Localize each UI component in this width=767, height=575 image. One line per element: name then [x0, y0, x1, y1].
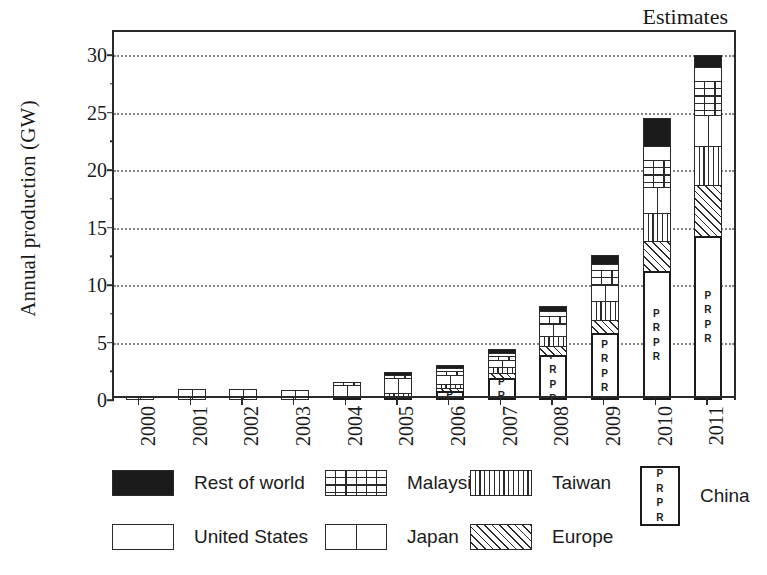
legend-label: United States — [194, 526, 308, 548]
x-tick-label: 2005 — [395, 406, 418, 446]
bar-segment-rest-of-world — [488, 349, 516, 353]
legend-label: Japan — [407, 526, 459, 548]
y-tick-mark — [107, 54, 114, 56]
x-tick-label: 2003 — [291, 406, 314, 446]
bar-segment-china: P R P R — [694, 236, 722, 400]
bar-segment-taiwan — [436, 384, 464, 387]
x-tick-mark — [138, 398, 140, 405]
bar-2006[interactable]: P — [436, 365, 464, 400]
bar-segment-taiwan — [694, 146, 722, 185]
y-tick-label: 20 — [87, 159, 107, 182]
x-tick-label: 2001 — [188, 406, 211, 446]
bar-segment-europe — [643, 241, 671, 271]
legend-swatch-solid-black — [112, 470, 174, 496]
bar-segment-europe — [488, 373, 516, 378]
bar-segment-malaysia — [384, 375, 412, 378]
bar-segment-japan — [643, 187, 671, 212]
bar-segment-china: P R P R — [643, 271, 671, 400]
bar-segment-rest-of-world — [539, 306, 567, 312]
bar-segment-china: P R P R — [591, 333, 619, 400]
legend-item-japan[interactable]: Japan — [325, 524, 459, 550]
legend-label: Taiwan — [552, 472, 611, 494]
bar-segment-malaysia — [539, 316, 567, 324]
bar-segment-europe — [694, 185, 722, 236]
y-tick-mark — [107, 227, 114, 229]
x-tick-mark — [706, 398, 708, 405]
bar-segment-japan — [436, 375, 464, 385]
x-tick-label: 2010 — [653, 406, 676, 446]
bar-segment-rest-of-world — [591, 255, 619, 264]
bar-segment-malaysia — [591, 270, 619, 285]
legend-swatch-diagonal-hatch — [470, 524, 532, 550]
x-tick-mark — [345, 398, 347, 405]
china-pr-marker: P R P R — [656, 467, 664, 525]
y-tick-mark — [107, 112, 114, 114]
x-tick-mark — [551, 398, 553, 405]
x-tick-label: 2009 — [601, 406, 624, 446]
bar-segment-united-states — [539, 311, 567, 316]
bar-segment-rest-of-world — [643, 118, 671, 146]
legend-item-europe[interactable]: Europe — [470, 524, 613, 550]
china-pr-marker: P R P R — [704, 289, 712, 347]
bar-segment-japan — [333, 385, 361, 396]
bar-segment-taiwan — [488, 367, 516, 373]
legend-swatch-single-divider — [325, 524, 387, 550]
x-tick-label: 2002 — [240, 406, 263, 446]
bar-segment-japan — [539, 324, 567, 336]
bar-segment-united-states — [436, 368, 464, 371]
bar-2008[interactable]: P R P R — [539, 306, 567, 400]
bar-2009[interactable]: P R P R — [591, 255, 619, 400]
bar-segment-united-states — [591, 264, 619, 270]
legend-swatch-china-pr-box: P R P R — [640, 466, 680, 526]
x-tick-mark — [603, 398, 605, 405]
china-pr-marker: P R P R — [549, 355, 557, 400]
bar-2007[interactable]: P R — [488, 349, 516, 400]
legend-item-united-states[interactable]: United States — [112, 524, 308, 550]
x-tick-mark — [293, 398, 295, 405]
x-tick-mark — [396, 398, 398, 405]
bar-segment-taiwan — [591, 301, 619, 319]
bars-layer: PPPP RP R P RP R P RP R P RP R P R — [114, 32, 734, 400]
y-tick-label: 5 — [97, 331, 107, 354]
bar-segment-china: P R P R — [539, 355, 567, 400]
china-pr-marker: P R P R — [653, 307, 661, 365]
legend-item-rest-of-world[interactable]: Rest of world — [112, 470, 305, 496]
bar-2011[interactable]: P R P R — [694, 55, 722, 400]
x-tick-mark — [448, 398, 450, 405]
bar-segment-taiwan — [643, 213, 671, 242]
x-tick-mark — [500, 398, 502, 405]
legend-label: China — [700, 485, 750, 507]
plot-area: Estimates 051015202530 PPPP RP R P RP R … — [112, 30, 736, 400]
bar-segment-europe — [539, 346, 567, 355]
bar-segment-united-states — [488, 353, 516, 356]
legend-swatch-grid — [325, 470, 387, 496]
x-tick-label: 2007 — [498, 406, 521, 446]
chart-legend: Rest of worldUnited StatesMalaysiaJapanT… — [0, 462, 767, 575]
bar-segment-rest-of-world — [384, 372, 412, 375]
y-tick-mark — [107, 169, 114, 171]
bar-segment-malaysia — [643, 160, 671, 188]
x-tick-label: 2006 — [446, 406, 469, 446]
x-tick-mark — [655, 398, 657, 405]
bar-segment-taiwan — [539, 336, 567, 346]
legend-swatch-vertical-stripe — [470, 470, 532, 496]
legend-item-china[interactable]: P R P RChina — [640, 466, 750, 526]
legend-item-taiwan[interactable]: Taiwan — [470, 470, 611, 496]
y-tick-label: 15 — [87, 216, 107, 239]
legend-label: Europe — [552, 526, 613, 548]
x-tick-mark — [190, 398, 192, 405]
bar-2010[interactable]: P R P R — [643, 118, 671, 400]
legend-item-malaysia[interactable]: Malaysia — [325, 470, 482, 496]
y-tick-mark — [107, 342, 114, 344]
bar-segment-malaysia — [436, 371, 464, 374]
bar-segment-malaysia — [694, 81, 722, 114]
x-tick-label: 2011 — [705, 406, 728, 445]
y-tick-label: 10 — [87, 274, 107, 297]
bar-segment-rest-of-world — [436, 365, 464, 368]
bar-segment-rest-of-world — [694, 55, 722, 67]
y-tick-label: 0 — [97, 389, 107, 412]
china-pr-marker: P R P R — [601, 338, 609, 396]
bar-segment-united-states — [694, 67, 722, 82]
bar-segment-europe — [436, 388, 464, 391]
x-tick-label: 2000 — [136, 406, 159, 446]
